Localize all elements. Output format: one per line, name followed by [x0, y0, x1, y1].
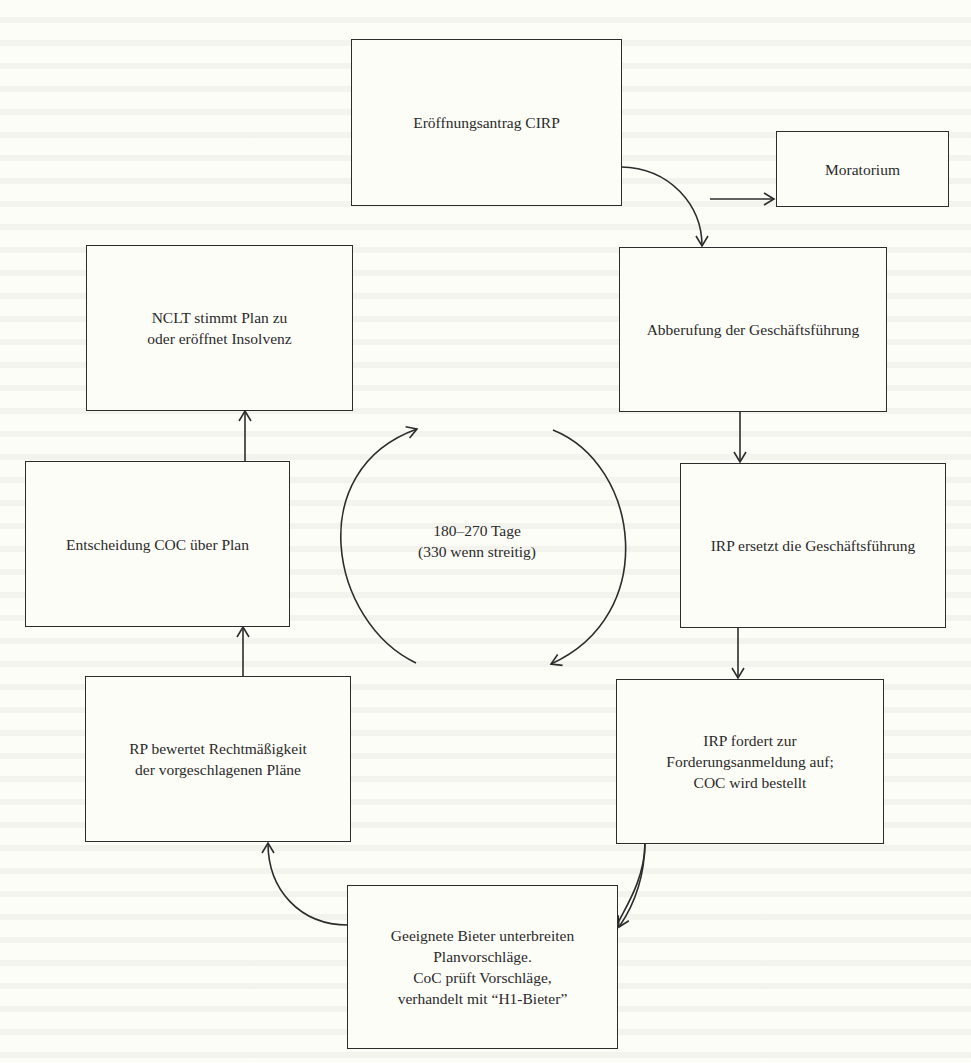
- node-coc-decision: Entscheidung COC über Plan: [25, 461, 290, 627]
- node-irp-claims: IRP fordert zur Forderungsanmeldung auf;…: [616, 679, 884, 844]
- node-rp-assess-label: RP bewertet Rechtmäßigkeit der vorgeschl…: [129, 738, 307, 780]
- node-rp-assess: RP bewertet Rechtmäßigkeit der vorgeschl…: [85, 676, 351, 842]
- arrow-bidders-to-rp-assess: [268, 843, 348, 925]
- node-opening-label: Eröffnungsantrag CIRP: [413, 112, 560, 133]
- node-moratorium-label: Moratorium: [825, 159, 900, 180]
- cycle-duration-label: 180–270 Tage (330 wenn streitig): [387, 520, 567, 562]
- node-bidders: Geeignete Bieter unterbreiten Planvorsch…: [347, 885, 618, 1049]
- arrow-irp-claims-to-bidders: [618, 843, 645, 927]
- node-irp-claims-label: IRP fordert zur Forderungsanmeldung auf;…: [666, 730, 833, 793]
- node-removal-label: Abberufung der Geschäftsführung: [647, 319, 860, 340]
- node-irp-replaces: IRP ersetzt die Geschäftsführung: [680, 463, 946, 628]
- node-moratorium: Moratorium: [776, 131, 949, 207]
- node-nclt: NCLT stimmt Plan zu oder eröffnet Insolv…: [86, 245, 353, 411]
- node-opening: Eröffnungsantrag CIRP: [351, 39, 622, 206]
- node-coc-decision-label: Entscheidung COC über Plan: [66, 534, 249, 555]
- node-bidders-label: Geeignete Bieter unterbreiten Planvorsch…: [391, 925, 574, 1009]
- node-irp-replaces-label: IRP ersetzt die Geschäftsführung: [711, 535, 916, 556]
- node-removal: Abberufung der Geschäftsführung: [619, 247, 887, 412]
- node-nclt-label: NCLT stimmt Plan zu oder eröffnet Insolv…: [147, 307, 291, 349]
- arrow-opening-to-removal: [621, 167, 702, 246]
